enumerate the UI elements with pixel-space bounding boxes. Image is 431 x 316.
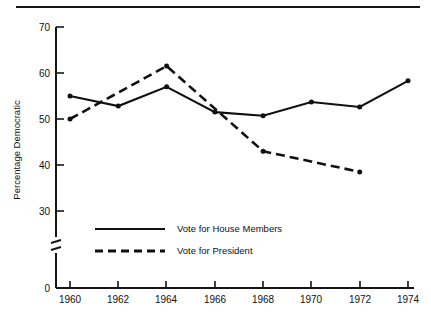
x-tick-label-1968: 1968: [252, 294, 275, 305]
legend-label-house: Vote for House Members: [177, 223, 282, 234]
chart-figure: 70 60 50 40 30 0 1960 1962 1964 1966 196…: [0, 0, 431, 316]
y-tick-label-60: 60: [39, 68, 51, 79]
series-line: [70, 81, 408, 116]
x-tick-label-1966: 1966: [204, 294, 227, 305]
x-tick-label-1970: 1970: [300, 294, 323, 305]
data-point: [261, 113, 266, 118]
data-series-layer: [68, 64, 411, 175]
data-point: [68, 117, 73, 122]
x-tick-label-1964: 1964: [155, 294, 178, 305]
data-point: [406, 78, 411, 83]
data-point: [164, 64, 169, 69]
x-tick-label-1972: 1972: [349, 294, 372, 305]
series-line: [70, 66, 360, 172]
line-chart-canvas: 70 60 50 40 30 0 1960 1962 1964 1966 196…: [0, 0, 431, 316]
series-house: [68, 78, 411, 118]
y-tick-label-0: 0: [44, 283, 50, 294]
y-tick-label-40: 40: [39, 160, 51, 171]
y-axis-title: Percentage Democratic: [11, 100, 22, 200]
y-axis-ticks: [56, 27, 64, 211]
y-tick-label-30: 30: [39, 206, 51, 217]
data-point: [309, 100, 314, 105]
data-point: [357, 169, 362, 174]
y-axis-break-symbol: [51, 240, 61, 250]
data-point: [116, 104, 121, 109]
x-tick-label-1960: 1960: [59, 294, 82, 305]
series-president: [68, 64, 363, 175]
data-point: [357, 105, 362, 110]
x-tick-label-1974: 1974: [397, 294, 420, 305]
y-tick-label-50: 50: [39, 114, 51, 125]
x-tick-label-1962: 1962: [107, 294, 130, 305]
legend-label-president: Vote for President: [177, 245, 253, 256]
data-point: [261, 149, 266, 154]
y-tick-label-70: 70: [39, 22, 51, 33]
chart-legend: Vote for House Members Vote for Presiden…: [95, 223, 282, 256]
data-point: [164, 84, 169, 89]
data-point: [68, 94, 73, 99]
x-axis-ticks: [70, 281, 408, 288]
